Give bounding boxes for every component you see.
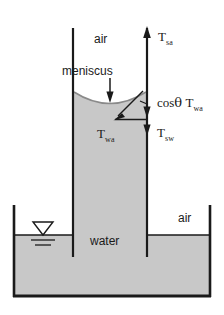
label-t-sw-base: T [157, 125, 165, 140]
water-region [15, 92, 209, 295]
meniscus-callout-arrow-icon [106, 78, 113, 103]
label-t-sw: Tsw [157, 126, 174, 143]
label-t-sw-sub: sw [165, 134, 174, 143]
label-t-wa-inner-sub: wa [105, 135, 115, 144]
label-t-sa-base: T [158, 29, 166, 44]
label-water: water [90, 235, 119, 247]
capillary-rise-figure: air air water meniscus Tsa cosθ Twa Tsw … [0, 0, 224, 315]
label-t-sa: Tsa [158, 30, 173, 47]
capillary-water-fill [74, 92, 146, 257]
label-air-top: air [94, 33, 107, 45]
label-t-wa-inner-base: T [97, 126, 105, 141]
label-cos-t-sub: wa [193, 104, 203, 113]
label-cos-theta-t-wa: cosθ Twa [157, 96, 203, 113]
label-t-wa-inner: Twa [97, 127, 115, 144]
label-t-sa-sub: sa [166, 38, 173, 47]
diagram-canvas [0, 0, 224, 315]
label-air-right: air [178, 212, 191, 224]
label-cos-prefix: cos [157, 95, 174, 110]
theta-symbol: θ [174, 95, 182, 110]
label-meniscus: meniscus [62, 65, 113, 77]
